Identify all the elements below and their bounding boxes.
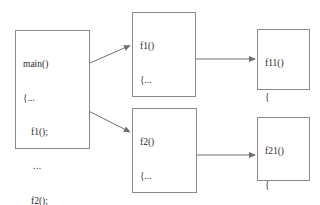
code-line-f1-open-brace: {... <box>133 75 195 86</box>
code-line-f21-signature: f21() <box>258 146 309 157</box>
function-box-f1[interactable]: f1() {... f11(); ... } <box>132 12 196 97</box>
code-line-main-signature: main() <box>16 59 89 70</box>
code-line-main-open-brace: {... <box>16 93 89 104</box>
function-box-main[interactable]: main() {... f1(); ... f2(); ... } <box>15 30 90 149</box>
code-line-f2-open-brace: {... <box>133 171 196 182</box>
code-line-main-ellipsis-1: ... <box>16 161 89 172</box>
diagram-canvas: main() {... f1(); ... f2(); ... } f1() {… <box>0 0 320 205</box>
code-line-f2-signature: f2() <box>133 137 196 148</box>
code-line-f11-open-brace: { <box>258 92 309 103</box>
function-box-f2[interactable]: f2() {... f21(); ... } <box>132 108 197 193</box>
function-box-f11[interactable]: f11() { ... } <box>257 29 310 90</box>
code-line-f1-signature: f1() <box>133 41 195 52</box>
function-box-f21[interactable]: f21() { ... } <box>257 117 310 181</box>
code-line-main-call-f1: f1(); <box>16 127 89 138</box>
code-line-main-call-f2: f2(); <box>16 196 89 205</box>
code-line-f11-signature: f11() <box>258 58 309 69</box>
code-line-f21-open-brace: { <box>258 180 309 191</box>
